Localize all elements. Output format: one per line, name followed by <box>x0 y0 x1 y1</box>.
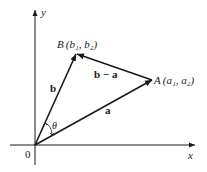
angle-theta-label: θ <box>52 120 57 131</box>
vector-diagram: y x 0 B(b₁, b₂) A(a₁, a₂) b a b − a θ <box>0 0 207 172</box>
point-b-label: B(b₁, b₂) <box>57 38 98 51</box>
vector-b-label: b <box>50 82 56 94</box>
origin-label: 0 <box>25 148 31 160</box>
x-axis-label: x <box>187 149 193 161</box>
point-a-label: A(a₁, a₂) <box>153 74 195 87</box>
vector-b-minus-a-label: b − a <box>94 68 118 80</box>
vector-a-label: a <box>105 104 111 116</box>
angle-arc <box>45 123 52 135</box>
vector-b <box>35 54 76 145</box>
y-axis-label: y <box>40 6 46 18</box>
